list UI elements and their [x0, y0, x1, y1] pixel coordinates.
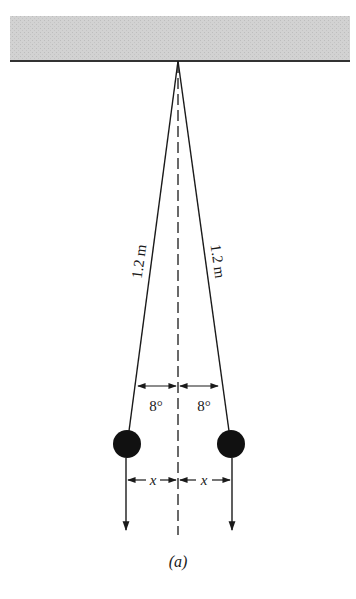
right-displacement-label: x	[200, 472, 208, 488]
right-ball	[217, 430, 245, 458]
left-ball	[113, 430, 141, 458]
ceiling	[10, 16, 350, 61]
left-angle-label: 8°	[149, 398, 163, 414]
right-length-label: 1.2 m	[208, 243, 229, 279]
pendulum-diagram: 1.2 m 1.2 m 8° 8° x x (a)	[0, 0, 356, 599]
right-angle-label: 8°	[197, 398, 211, 414]
figure-caption: (a)	[169, 553, 188, 571]
left-displacement-label: x	[149, 472, 157, 488]
left-length-label: 1.2 m	[129, 243, 150, 279]
